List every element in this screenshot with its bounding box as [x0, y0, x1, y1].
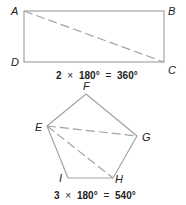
pentagon-equation: 3 × 180° = 540° [54, 190, 136, 201]
vertex-label-e: E [35, 121, 43, 133]
rectangle-equation: 2 × 180° = 360° [56, 70, 138, 81]
vertex-label-i: I [59, 172, 62, 184]
vertex-label-c: C [168, 64, 176, 76]
vertex-label-d: D [11, 56, 19, 68]
vertex-label-g: G [142, 131, 151, 143]
polygon-angle-sum-diagram: A B C D 2 × 180° = 360° F E G H I 3 × 18… [0, 0, 186, 205]
pentagon-figure: F E G H I 3 × 180° = 540° [35, 80, 151, 201]
rectangle-figure: A B C D 2 × 180° = 360° [10, 5, 176, 81]
diagonal-ac [24, 11, 164, 62]
diagonal-eg [47, 126, 137, 136]
vertex-label-h: H [115, 173, 123, 185]
vertex-label-a: A [10, 5, 18, 17]
vertex-label-b: B [168, 5, 175, 17]
vertex-label-f: F [83, 80, 91, 92]
